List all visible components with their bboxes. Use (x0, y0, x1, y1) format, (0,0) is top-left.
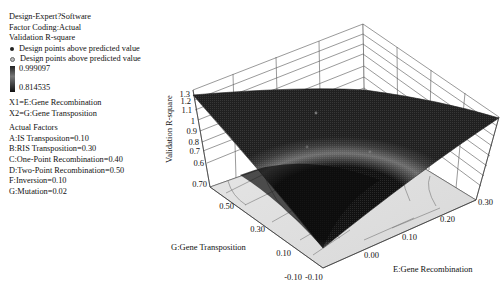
svg-text:0.00: 0.00 (364, 250, 379, 260)
svg-text:0.10: 0.10 (402, 232, 417, 242)
svg-text:0.30: 0.30 (478, 197, 493, 207)
svg-text:0.6: 0.6 (193, 158, 204, 168)
surface-plot: 1.3 1.2 1.1 1 0.9 0.8 0.7 0.6 Validation… (0, 0, 504, 283)
svg-text:0.70: 0.70 (192, 179, 207, 189)
design-point (306, 146, 309, 149)
svg-text:-0.10: -0.10 (305, 272, 323, 282)
design-point (315, 112, 318, 115)
svg-text:0.20: 0.20 (440, 214, 455, 224)
svg-text:0.30: 0.30 (250, 224, 265, 234)
svg-text:0.50: 0.50 (219, 201, 234, 211)
svg-text:1.1: 1.1 (181, 105, 192, 115)
svg-text:1: 1 (191, 116, 195, 126)
z-axis-label: Validation R-square (164, 95, 174, 163)
svg-text:0.7: 0.7 (189, 146, 200, 156)
svg-text:-0.10: -0.10 (284, 272, 302, 282)
svg-text:0.10: 0.10 (276, 248, 291, 258)
x-axis-label: E:Gene Recombination (393, 264, 473, 274)
svg-text:0.9: 0.9 (186, 126, 197, 136)
y-axis-label: G:Gene Transposition (171, 242, 247, 252)
design-point (369, 151, 372, 154)
